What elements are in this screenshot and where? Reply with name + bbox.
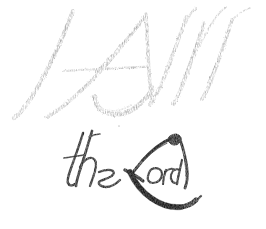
artwork-svg [0, 0, 266, 229]
ink-speck [118, 125, 120, 127]
calligraphy-artwork: I AM the Lord [0, 0, 266, 229]
